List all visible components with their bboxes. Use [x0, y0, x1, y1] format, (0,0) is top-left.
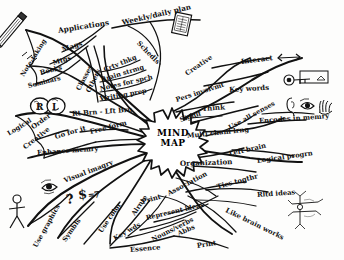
- key-icon: [284, 71, 328, 85]
- pencil-icon: [0, 12, 27, 53]
- brain-left-label: L: [52, 102, 59, 112]
- planner-book-icon: [172, 12, 192, 36]
- icon-layer: R L: [0, 0, 344, 260]
- eye-side-icon: [41, 180, 57, 194]
- ear-icon: [287, 98, 294, 116]
- mind-map-canvas: MIND MAP: [0, 0, 344, 260]
- brain-right-label: R: [36, 102, 44, 112]
- stick-figure-icon: [9, 195, 25, 228]
- arrow-icon: [278, 54, 300, 61]
- pencil-motion-icon: [22, 52, 37, 62]
- eye-icon: [300, 99, 314, 109]
- neuron-icon: [288, 191, 323, 229]
- hand-icon: [319, 100, 332, 114]
